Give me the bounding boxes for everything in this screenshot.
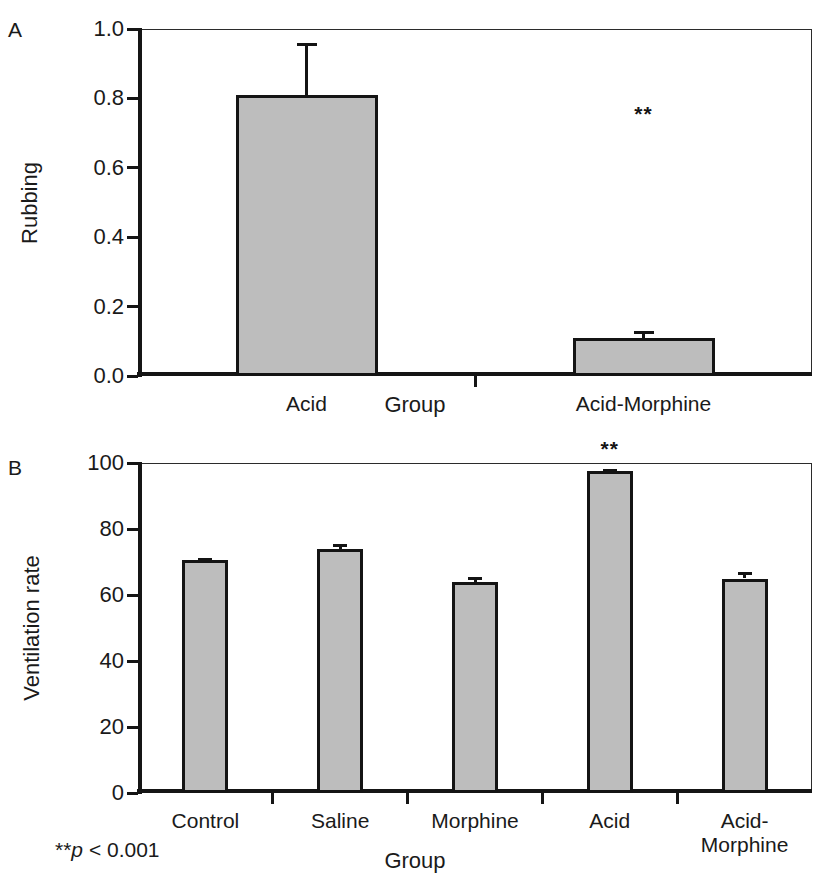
y-axis-tick xyxy=(127,97,138,100)
bar-saline xyxy=(317,549,363,793)
error-bar-cap xyxy=(468,577,482,580)
x-axis-tick-label: Acid xyxy=(589,809,630,833)
bar-acid--morphine xyxy=(722,579,768,794)
y-axis-tick-label: 60 xyxy=(100,582,124,608)
footnote-threshold: < 0.001 xyxy=(83,838,159,861)
error-bar-cap xyxy=(333,544,347,547)
panel-b-y-axis xyxy=(138,462,142,794)
x-axis-tick xyxy=(676,793,679,804)
bar-morphine xyxy=(452,582,498,793)
y-axis-tick xyxy=(127,528,138,531)
x-axis-tick xyxy=(406,793,409,804)
x-axis-tick xyxy=(271,793,274,804)
panel-a-plot-frame: 0.00.20.40.60.81.0AcidAcid-Morphine** xyxy=(138,29,812,376)
x-axis-tick-label: Acid- Morphine xyxy=(701,809,789,857)
bar-acid-morphine xyxy=(573,338,715,376)
x-axis-tick-label: Control xyxy=(172,809,240,833)
panel-b-frame-right-edge xyxy=(811,463,812,793)
x-axis-tick-label: Acid-Morphine xyxy=(576,392,711,416)
x-axis-tick xyxy=(474,376,477,387)
error-bar-cap xyxy=(603,469,617,472)
y-axis-tick xyxy=(127,166,138,169)
x-axis-tick-label: Morphine xyxy=(431,809,519,833)
panel-b-letter: B xyxy=(8,456,22,480)
y-axis-tick-label: 0.8 xyxy=(93,85,124,111)
x-axis-tick-label: Saline xyxy=(311,809,369,833)
y-axis-tick xyxy=(127,660,138,663)
y-axis-tick-label: 100 xyxy=(87,450,124,476)
panel-b-x-axis-title: Group xyxy=(384,848,445,874)
error-bar-cap xyxy=(738,572,752,575)
panel-a-frame-top-edge xyxy=(138,29,812,30)
significance-marker: ** xyxy=(634,102,652,126)
y-axis-tick xyxy=(127,375,138,378)
panel-a-frame-right-edge xyxy=(811,29,812,376)
bar-acid xyxy=(236,95,378,376)
y-axis-tick-label: 0 xyxy=(112,780,124,806)
panel-b-plot-frame: 020406080100ControlSalineMorphineAcidAci… xyxy=(138,463,812,793)
y-axis-tick-label: 0.6 xyxy=(93,155,124,181)
panel-b-y-axis-title: Ventilation rate xyxy=(19,555,45,701)
y-axis-tick xyxy=(127,28,138,31)
error-bar-stem xyxy=(305,43,308,95)
y-axis-tick-label: 0.2 xyxy=(93,294,124,320)
panel-a-y-axis xyxy=(138,28,142,377)
bar-control xyxy=(182,560,228,793)
panel-a-y-axis-title: Rubbing xyxy=(17,162,43,244)
panel-a-letter: A xyxy=(8,18,22,42)
panel-a: A 0.00.20.40.60.81.0AcidAcid-Morphine** … xyxy=(0,0,827,440)
significance-footnote: **p < 0.001 xyxy=(55,838,160,862)
y-axis-tick xyxy=(127,792,138,795)
footnote-stars: ** xyxy=(55,838,71,861)
x-axis-tick xyxy=(541,793,544,804)
footnote-p-symbol: p xyxy=(71,838,83,861)
panel-a-x-axis-title: Group xyxy=(384,392,445,418)
y-axis-tick-label: 1.0 xyxy=(93,16,124,42)
y-axis-tick xyxy=(127,726,138,729)
panel-b: B 020406080100ControlSalineMorphineAcidA… xyxy=(0,440,827,884)
y-axis-tick-label: 0.0 xyxy=(93,363,124,389)
y-axis-tick xyxy=(127,462,138,465)
y-axis-tick-label: 40 xyxy=(100,648,124,674)
panel-b-frame-top-edge xyxy=(138,463,812,464)
y-axis-tick xyxy=(127,594,138,597)
error-bar-cap xyxy=(198,558,212,561)
error-bar-cap xyxy=(634,331,654,334)
x-axis-tick-label: Acid xyxy=(286,392,327,416)
bar-acid xyxy=(587,471,633,793)
y-axis-tick xyxy=(127,236,138,239)
y-axis-tick xyxy=(127,305,138,308)
figure-container: A 0.00.20.40.60.81.0AcidAcid-Morphine** … xyxy=(0,0,827,884)
error-bar-cap xyxy=(297,43,317,46)
y-axis-tick-label: 20 xyxy=(100,714,124,740)
y-axis-tick-label: 80 xyxy=(100,516,124,542)
y-axis-tick-label: 0.4 xyxy=(93,224,124,250)
significance-marker: ** xyxy=(601,437,619,461)
